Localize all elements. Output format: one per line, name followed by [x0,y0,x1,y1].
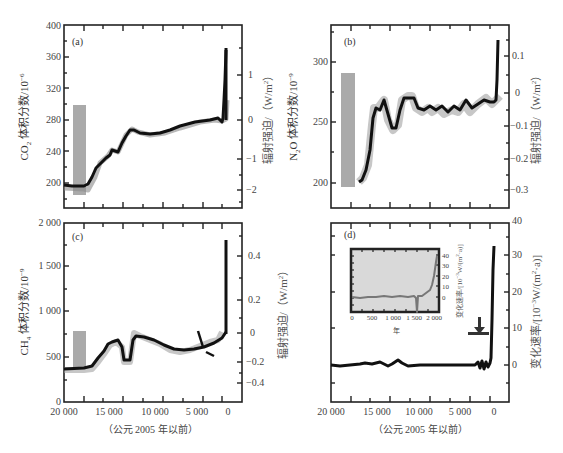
svg-text:1 000: 1 000 [39,305,62,316]
svg-text:10 000: 10 000 [141,406,169,417]
panel-b-label: (b) [344,36,356,48]
panel-c-x-tick-labels: 20 000 15 000 10 000 5 000 0 [50,406,230,417]
svg-text:−0.2: −0.2 [510,153,528,164]
svg-text:360: 360 [46,51,61,62]
panel-c-right-tick-labels: 0.40.20−0.2−0.4 [246,250,264,388]
panel-a-y-tick-labels: 400360320280240200 [46,20,61,188]
inset-shaded-area [351,249,438,312]
panel-a-ylabel: CO2 体积分数/10−6 [17,73,33,161]
svg-text:0: 0 [442,294,446,302]
panel-d-inset: 403020100 0 500 1 000 1 500 2 000 年 变化速率… [350,244,464,335]
panel-c-shaded-bar [73,331,86,367]
panel-c-y-tick-labels: 2 0001 5001 0005000 [39,217,62,407]
svg-text:15 000: 15 000 [95,406,123,417]
svg-text:0: 0 [226,406,231,417]
svg-text:0: 0 [250,327,255,338]
svg-text:500: 500 [367,314,378,322]
svg-text:−0.3: −0.3 [510,184,528,195]
panel-c-x-ticks [84,223,222,402]
panel-c-y-ticks [64,236,242,383]
panel-a-series-line [64,50,226,186]
panel-c: 2 0001 5001 0005000 0.40.20−0.2−0.4 (c) … [17,217,289,435]
svg-text:5 000: 5 000 [449,406,472,417]
panel-c-ylabel-right: 辐射强迫/（W/m2） [276,265,289,360]
panel-a: 400360320280240200 10−1−2 (a) CO2 体积分数/1… [17,20,274,208]
svg-text:40: 40 [442,252,450,260]
panel-a-label: (a) [72,36,83,48]
panel-d-xlabel: （公元 2005 年以前） [373,423,468,435]
svg-text:1 000: 1 000 [385,314,401,322]
panel-d-right-tick-labels: 403020100 [512,215,522,370]
svg-text:−2: −2 [246,184,257,195]
svg-text:300: 300 [313,56,328,67]
svg-text:1: 1 [248,69,253,80]
panel-c-series-line [64,332,226,369]
svg-text:20: 20 [512,286,522,297]
svg-text:20 000: 20 000 [317,406,345,417]
panel-b-right-tick-labels: 0.10−0.1−0.2−0.3 [510,50,528,195]
svg-text:10 000: 10 000 [405,406,433,417]
svg-text:10: 10 [512,322,522,333]
panel-c-label: (c) [72,231,83,243]
svg-text:200: 200 [46,177,61,188]
panel-a-right-tick-labels: 10−1−2 [246,69,257,195]
svg-text:40: 40 [512,215,522,226]
svg-text:30: 30 [442,262,450,270]
panel-b: 300250200 0.10−0.1−0.2−0.3 (b) N2O 体积分数/… [286,25,542,208]
panel-a-x-ticks [84,25,222,208]
panel-a-shaded-bar [73,105,86,195]
svg-text:2 000: 2 000 [426,314,442,322]
inset-ylabel: 变化速率/[10−3W/(m2·a)] [455,244,464,318]
panel-d-ylabel-right: 变化速率/[10−3W/(m2·a)] [529,255,543,369]
panel-d: 403020100 (d) 403020100 [317,215,543,435]
svg-text:−0.2: −0.2 [246,356,264,367]
inset-right-tick-labels: 403020100 [442,252,450,302]
svg-text:5 000: 5 000 [186,406,209,417]
panel-b-shaded-bar [341,73,355,187]
panel-b-y-tick-labels: 300250200 [313,56,328,188]
svg-text:20: 20 [442,273,450,281]
panel-c-xlabel: （公元 2005 年以前） [103,423,198,435]
svg-text:240: 240 [46,146,61,157]
svg-text:0: 0 [512,359,517,370]
svg-text:30: 30 [512,249,522,260]
panel-c-ylabel: CH4 体积分数/10−9 [17,268,33,356]
arrow-icon [468,317,489,335]
svg-text:0: 0 [350,314,354,322]
svg-text:250: 250 [313,116,328,127]
svg-text:200: 200 [313,177,328,188]
svg-text:400: 400 [46,20,61,31]
svg-text:20 000: 20 000 [50,406,78,417]
svg-text:320: 320 [46,83,61,94]
panel-a-ylabel-right: 辐射强迫/（W/m2） [261,70,274,165]
svg-text:−0.1: −0.1 [510,120,528,131]
panel-c-frame [64,223,242,402]
svg-text:0: 0 [515,87,520,98]
inset-xlabel: 年 [393,326,400,335]
svg-text:0.2: 0.2 [248,294,261,305]
svg-text:500: 500 [46,351,61,362]
svg-text:−1: −1 [246,153,257,164]
panel-a-series-band [64,100,227,190]
svg-text:1 500: 1 500 [39,260,62,271]
svg-text:0.1: 0.1 [512,50,525,61]
svg-text:2 000: 2 000 [39,217,62,228]
svg-text:280: 280 [46,114,61,125]
svg-text:10: 10 [442,283,450,291]
panel-d-label: (d) [344,229,356,241]
inset-x-tick-labels: 0 500 1 000 1 500 2 000 [350,314,442,322]
svg-text:15 000: 15 000 [363,406,391,417]
svg-text:−0.4: −0.4 [246,377,264,388]
svg-text:0.4: 0.4 [248,250,261,261]
figure: 400360320280240200 10−1−2 (a) CO2 体积分数/1… [0,0,563,453]
panel-b-ylabel: N2O 体积分数/10−9 [286,73,302,161]
panel-d-x-tick-labels: 20 000 15 000 10 000 5 000 0 [317,406,496,417]
svg-text:0: 0 [248,114,253,125]
panel-b-ylabel-right: 辐射强迫/（W/m2） [529,70,542,165]
svg-text:1 500: 1 500 [406,314,422,322]
panel-c-segment-2 [206,352,214,356]
svg-text:0: 0 [492,406,497,417]
